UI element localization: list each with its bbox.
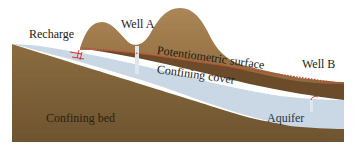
aquifer-diagram: Recharge Well A Potentiometric surface W… (0, 0, 359, 160)
well-b-casing (310, 100, 313, 112)
cross-section-graphic (0, 0, 359, 160)
aquifer-label: Aquifer (267, 112, 304, 124)
well-a-label: Well A (121, 18, 154, 30)
well-a-casing (135, 46, 139, 74)
recharge-label: Recharge (29, 28, 74, 40)
confining-bed-label: Confining bed (46, 112, 115, 124)
well-b-label: Well B (302, 58, 335, 70)
